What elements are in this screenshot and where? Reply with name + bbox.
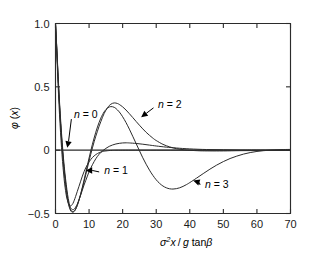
plot-svg: 010203040506070−0.500.51.0 n = 0n = 1n =…: [0, 0, 313, 260]
x-axis-title: σ2x / g tanβ: [160, 235, 212, 248]
annotation-arrowhead-0: [65, 141, 71, 148]
y-axis-title: φ (x): [8, 107, 20, 129]
x-tick-label-4: 40: [184, 218, 196, 230]
x-tick-label-0: 0: [52, 218, 58, 230]
x-tick-label-3: 30: [150, 218, 162, 230]
x-tick-label-5: 50: [217, 218, 229, 230]
series-annotations: n = 0n = 1n = 2n = 3: [65, 98, 228, 190]
annotation-label-2: n = 2: [158, 98, 182, 110]
annotation-leader-2: [146, 108, 153, 113]
y-tick-label-3: 1.0: [34, 18, 49, 30]
y-tick-label-0: −0.5: [28, 208, 50, 220]
annotation-label-1: n = 1: [104, 164, 128, 176]
x-tick-label-1: 10: [83, 218, 95, 230]
y-tick-label-2: 0.5: [34, 81, 49, 93]
annotation-leader-0: [69, 119, 72, 141]
x-tick-label-6: 60: [251, 218, 263, 230]
annotation-arrowhead-3: [193, 180, 200, 186]
figure-container: 010203040506070−0.500.51.0 n = 0n = 1n =…: [0, 0, 313, 260]
annotation-label-3: n = 3: [205, 178, 229, 190]
x-tick-label-7: 70: [284, 218, 296, 230]
axis-titles: σ2x / g tanβφ (x): [8, 107, 212, 248]
annotation-leader-3: [199, 183, 200, 185]
x-tick-label-2: 20: [117, 218, 129, 230]
annotation-arrowhead-2: [141, 111, 148, 117]
y-tick-label-1: 0: [43, 144, 49, 156]
annotation-label-0: n = 0: [74, 108, 98, 120]
annotation-leader-1: [92, 170, 99, 172]
